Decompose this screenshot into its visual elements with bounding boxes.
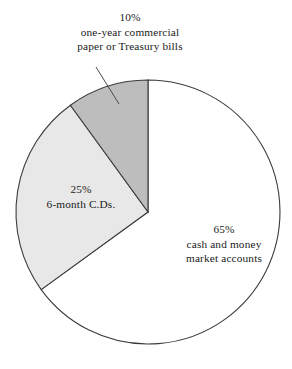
- pie-chart-figure: 10% one-year commercial paper or Treasur…: [0, 0, 292, 369]
- pie-label-six-month-cds: 25% 6-month C.Ds.: [6, 182, 156, 211]
- pie-label-percent: 65%: [158, 222, 290, 237]
- pie-label-percent: 10%: [16, 10, 244, 25]
- pie-label-cash-and-money-market-accounts: 65% cash and money market accounts: [158, 222, 290, 266]
- pie-label-description-line2: paper or Treasury bills: [16, 39, 244, 54]
- pie-label-description-line2: market accounts: [158, 251, 290, 266]
- pie-label-percent: 25%: [6, 182, 156, 197]
- pie-label-one-year-commercial-paper: 10% one-year commercial paper or Treasur…: [16, 10, 244, 54]
- pie-label-description-line1: cash and money: [158, 237, 290, 252]
- pie-label-description-line1: one-year commercial: [16, 25, 244, 40]
- pie-label-description-line1: 6-month C.Ds.: [6, 197, 156, 212]
